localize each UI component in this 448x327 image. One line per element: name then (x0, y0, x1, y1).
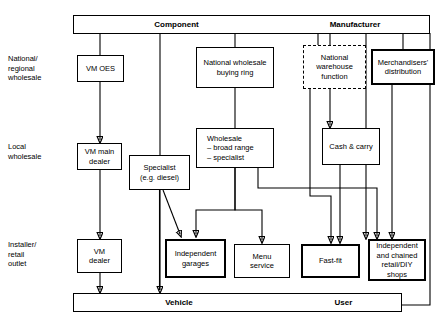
wire-wholesale-to-independent-garages (196, 168, 235, 234)
node-vm-main-dealer[interactable]: VM main dealer (77, 143, 122, 170)
node-independent-garages-label: Independent garages (173, 249, 219, 268)
node-merchandisers-distribution[interactable]: Merchandisers' distribution (371, 49, 435, 85)
top-bar-component-manufacturer: Component Manufacturer (73, 15, 430, 34)
node-fast-fit-label: Fast-fit (317, 256, 344, 266)
node-specialist[interactable]: Specialist (e.g. diesel) (129, 155, 190, 190)
node-vm-dealer-label: VM dealer (87, 247, 112, 266)
node-independent-chained-retail-diy-label: Independent and chained retail/DIY shops (374, 241, 420, 279)
top-bar-segment-manufacturer: Manufacturer (279, 16, 431, 33)
wire-specialist-to-independent-garages (163, 190, 180, 234)
node-vm-oes[interactable]: VM OES (77, 55, 124, 82)
bottom-bar-vehicle-user: Vehicle User (73, 293, 402, 312)
node-vm-oes-label: VM OES (84, 64, 117, 74)
node-independent-garages[interactable]: Independent garages (165, 239, 226, 278)
node-cash-and-carry[interactable]: Cash & carry (322, 128, 380, 165)
node-national-wholesale-buying-ring-label: National wholesale buying ring (202, 58, 269, 77)
node-national-warehouse-function-label: National warehouse function (314, 53, 355, 82)
node-menu-service-label: Menu service (248, 252, 276, 271)
node-independent-chained-retail-diy[interactable]: Independent and chained retail/DIY shops (368, 239, 426, 281)
node-menu-service[interactable]: Menu service (234, 244, 290, 278)
node-vm-dealer[interactable]: VM dealer (77, 239, 122, 273)
node-specialist-label: Specialist (e.g. diesel) (138, 163, 181, 182)
diagram-canvas: National/ regional wholesale Local whole… (0, 0, 448, 327)
node-cash-and-carry-label: Cash & carry (327, 142, 374, 152)
node-merchandisers-distribution-label: Merchandisers' distribution (376, 58, 431, 77)
wire-wholesale-to-retail-diy (258, 168, 377, 236)
node-fast-fit[interactable]: Fast-fit (301, 244, 360, 278)
node-wholesale[interactable]: Wholesale – broad range – specialist (196, 128, 274, 168)
top-bar-segment-component: Component (74, 16, 279, 33)
node-national-wholesale-buying-ring[interactable]: National wholesale buying ring (196, 47, 274, 88)
bottom-bar-segment-vehicle: Vehicle (74, 294, 284, 311)
node-national-warehouse-function[interactable]: National warehouse function (303, 45, 366, 89)
node-wholesale-label: Wholesale – broad range – specialist (197, 134, 256, 163)
node-vm-main-dealer-label: VM main dealer (83, 147, 117, 166)
bottom-bar-segment-user: User (284, 294, 403, 311)
